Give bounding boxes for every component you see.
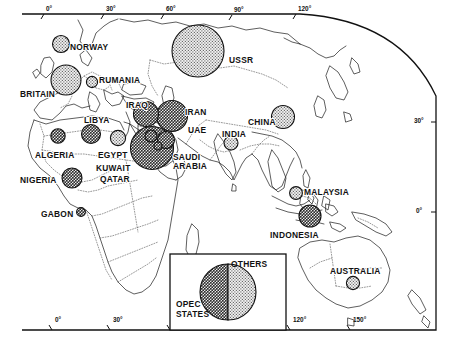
country-label-indonesia: INDONESIA	[270, 231, 319, 240]
country-label-egypt: EGYPT	[98, 151, 128, 160]
country-label-uae: UAE	[188, 126, 206, 135]
symbol-circle-rumania	[86, 76, 97, 87]
symbol-circle-nigeria	[62, 168, 82, 188]
symbol-circle-kuwait	[145, 130, 157, 142]
graticule-label-top_axis_labels-2: 60°	[166, 5, 176, 12]
country-label-rumania: RUMANIA	[99, 76, 140, 85]
symbol-circle-qatar	[154, 142, 162, 150]
country-label-india: INDIA	[222, 130, 246, 139]
graticule-label-right_axis_labels-0: 30°	[414, 117, 424, 124]
graticule-label-bottom_axis_labels-3: 150°	[353, 316, 366, 323]
symbol-circle-australia	[346, 276, 359, 289]
country-label-libya: LIBYA	[84, 116, 110, 125]
country-label-norway: NORWAY	[70, 43, 108, 52]
country-label-qatar: QATAR	[100, 175, 130, 184]
graticule-label-bottom_axis_labels-0: 0°	[55, 316, 61, 323]
graticule-label-top_axis_labels-4: 120°	[298, 5, 311, 12]
country-label-britain: BRITAIN	[20, 90, 55, 99]
symbol-circle-iran	[157, 101, 188, 132]
country-label-saudi-arabia: SAUDI ARABIA	[173, 153, 207, 171]
graticule-label-top_axis_labels-0: 0°	[46, 5, 52, 12]
country-label-malaysia: MALAYSIA	[304, 188, 349, 197]
graticule-label-bottom_axis_labels-1: 30°	[113, 316, 123, 323]
symbol-circle-ussr	[172, 25, 224, 77]
country-label-algeria: ALGERIA	[35, 151, 74, 160]
graticule-label-bottom_axis_labels-2: 120°	[293, 316, 306, 323]
country-label-gabon: GABON	[41, 210, 73, 219]
country-label-ussr: USSR	[229, 56, 253, 65]
country-label-kuwait: KUWAIT	[96, 164, 131, 173]
country-label-australia: AUSTRALIA	[330, 267, 381, 276]
country-label-iran: IRAN	[185, 108, 206, 117]
country-label-iraq: IRAQ	[126, 101, 148, 110]
graticule-label-top_axis_labels-1: 30°	[106, 5, 116, 12]
symbol-circle-britain	[51, 65, 81, 95]
legend-label-opec: OPEC STATES	[176, 300, 209, 319]
symbol-circle-algeria	[51, 129, 65, 143]
symbol-circle-malaysia	[290, 187, 303, 200]
symbol-circle-libya	[82, 125, 101, 144]
symbol-circle-indonesia	[299, 205, 321, 227]
graticule-label-top_axis_labels-3: 90°	[234, 6, 244, 13]
symbol-circle-norway	[53, 36, 70, 53]
country-label-china: CHINA	[248, 118, 276, 127]
symbol-circle-egypt	[110, 130, 125, 145]
legend-label-others: OTHERS	[231, 260, 267, 270]
graticule-label-right_axis_labels-1: 0°	[416, 207, 422, 214]
symbol-circle-gabon	[77, 208, 86, 217]
country-label-nigeria: NIGERIA	[20, 176, 57, 185]
map-figure: NORWAYBRITAINRUMANIAUSSRLIBYAALGERIAEGYP…	[0, 0, 455, 355]
world-map-svg	[0, 0, 455, 355]
